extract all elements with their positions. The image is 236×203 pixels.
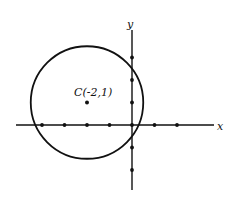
y-tick-dot xyxy=(130,101,134,105)
coordinate-diagram: x y C(-2,1) xyxy=(0,0,236,203)
y-tick-dot xyxy=(130,56,134,60)
x-tick-dot xyxy=(40,123,44,127)
x-tick-dot xyxy=(108,123,112,127)
x-tick-dot xyxy=(153,123,157,127)
x-tick-dot xyxy=(130,123,134,127)
y-tick-dot xyxy=(130,168,134,172)
y-tick-dot xyxy=(130,146,134,150)
center-label: C(-2,1) xyxy=(74,86,112,99)
y-axis-label: y xyxy=(126,18,134,31)
x-tick-dot xyxy=(175,123,179,127)
x-axis-label: x xyxy=(217,120,224,133)
x-tick-dot xyxy=(85,123,89,127)
y-tick-dot xyxy=(130,78,134,82)
center-point xyxy=(85,101,89,105)
x-tick-dot xyxy=(63,123,67,127)
